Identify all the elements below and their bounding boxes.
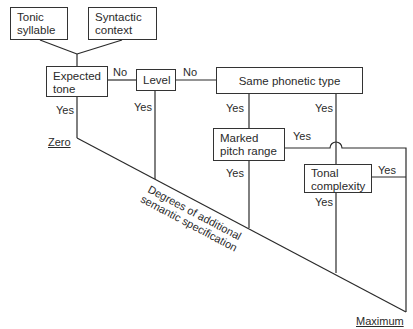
edge-label-same-yes-right: Yes — [315, 102, 333, 114]
node-label: Syntactic — [95, 11, 150, 24]
scale-label-maximum: Maximum — [356, 315, 404, 327]
node-label: syllable — [17, 24, 61, 37]
edge-label-marked-yes-down: Yes — [226, 167, 244, 179]
node-label: complexity — [311, 180, 365, 193]
node-label: tone — [53, 83, 101, 96]
node-label: Level — [143, 74, 169, 87]
node-label: Expected — [53, 70, 101, 83]
node-label: context — [95, 24, 150, 37]
edge-label-expected-yes: Yes — [56, 104, 74, 116]
edge-label-same-yes-left: Yes — [226, 102, 244, 114]
edge-label-level-no: No — [183, 66, 197, 78]
node-label: Marked — [220, 132, 278, 145]
node-same-phonetic-type: Same phonetic type — [216, 67, 363, 94]
scale-label-zero: Zero — [48, 136, 71, 148]
edge-label-marked-yes-right: Yes — [293, 130, 311, 142]
node-syntactic-context: Syntactic context — [88, 7, 157, 40]
node-label: Tonic — [17, 11, 61, 24]
node-expected-tone: Expected tone — [46, 66, 108, 97]
edge-label-level-yes: Yes — [134, 101, 152, 113]
node-marked-pitch-range: Marked pitch range — [213, 128, 285, 161]
edge-label-tonal-yes-down: Yes — [315, 196, 333, 208]
node-label: Tonal — [311, 167, 365, 180]
node-label: Same phonetic type — [223, 75, 356, 88]
node-level: Level — [136, 69, 176, 91]
node-label: pitch range — [220, 145, 278, 158]
node-tonic-syllable: Tonic syllable — [10, 7, 68, 40]
node-tonal-complexity: Tonal complexity — [304, 164, 372, 193]
edge-label-expected-no: No — [113, 66, 127, 78]
edge-label-tonal-yes-right: Yes — [378, 164, 396, 176]
